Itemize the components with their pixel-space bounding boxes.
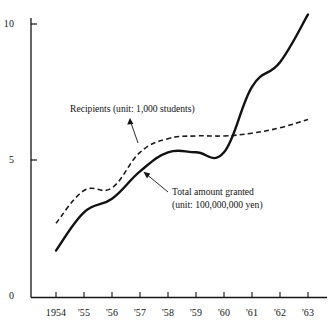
x-axis-label-1963: '63 xyxy=(288,307,328,318)
y-axis-label-5: 5 xyxy=(0,154,14,165)
annotation-total-amount-line1: Total amount granted xyxy=(172,186,254,198)
series-group xyxy=(56,14,308,250)
total-amount-arrow-head xyxy=(143,172,150,179)
chart-figure: 10 5 0 1954 '55 '56 '57 '58 '59 '60 '61 … xyxy=(0,0,335,335)
y-axis-label-0: 0 xyxy=(0,290,14,301)
chart-plot-area xyxy=(0,0,335,335)
y-axis-label-10: 10 xyxy=(0,18,14,29)
series-line-total-amount xyxy=(56,14,308,250)
annotation-total-amount-line2: (unit: 100,000,000 yen) xyxy=(172,199,263,211)
recipients-arrow-head xyxy=(127,118,133,125)
annotation-recipients: Recipients (unit: 1,000 students) xyxy=(70,103,195,115)
